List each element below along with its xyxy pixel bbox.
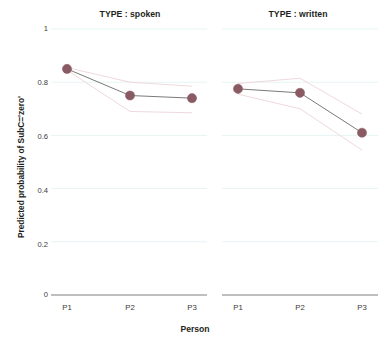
data-point [62,64,71,73]
gridlines [51,29,378,242]
data-point [233,84,242,93]
data-point [295,88,304,97]
series-points [62,64,366,137]
confidence-bands [67,68,362,150]
plot-canvas [0,0,390,346]
series-lines [67,69,362,133]
data-point [125,91,134,100]
data-point [357,128,366,137]
data-point [187,94,196,103]
faceted-line-chart: Predicted probability of SubC='zero' Per… [0,0,390,346]
